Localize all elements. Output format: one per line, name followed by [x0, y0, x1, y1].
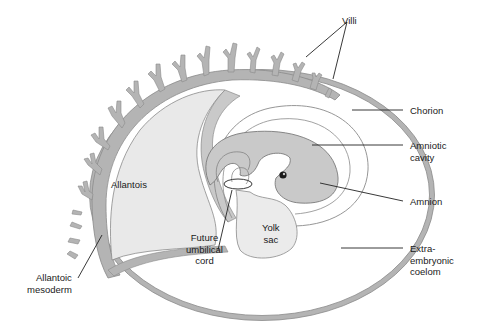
- label-allantois: Allantois: [111, 179, 147, 191]
- label-allantoic-mesoderm: Allantoic mesoderm: [27, 272, 72, 295]
- label-villi: Villi: [342, 15, 357, 27]
- embryo: [206, 131, 338, 203]
- label-future-umbilical-cord: Future umbilical cord: [186, 232, 223, 267]
- umbilical-ring: [224, 179, 252, 189]
- embryo-eye: [279, 171, 286, 178]
- label-chorion: Chorion: [410, 105, 443, 117]
- label-yolk-sac: Yolk sac: [262, 222, 280, 245]
- label-amnion: Amnion: [410, 196, 442, 208]
- label-extraembryonic-coelom: Extra- embryonic coelom: [410, 243, 454, 278]
- label-amniotic-cavity: Amniotic cavity: [410, 140, 446, 163]
